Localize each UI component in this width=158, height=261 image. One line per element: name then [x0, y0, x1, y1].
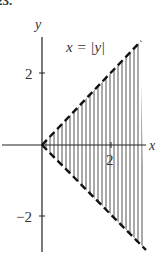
header-fragment: 23. [0, 0, 12, 8]
graph-figure: 23. y x x = |y| 2 [0, 0, 158, 261]
equation-label: x = |y| [65, 39, 105, 55]
y-axis-label: y [33, 17, 42, 32]
x-axis-label: x [148, 138, 156, 153]
y-tick-label-2: 2 [25, 66, 33, 82]
y-tick-label-neg2: −2 [16, 209, 32, 225]
x-tick-label-2: 2 [106, 152, 114, 168]
shaded-region [46, 30, 142, 255]
